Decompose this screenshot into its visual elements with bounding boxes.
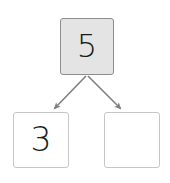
part-box-right[interactable] [104,112,160,168]
whole-box-value: 5 [77,30,97,62]
number-bond-diagram: 5 3 [0,0,170,183]
arrow-to-right-part [88,76,121,109]
whole-box[interactable]: 5 [60,18,114,75]
part-box-left-value: 3 [31,123,52,156]
part-box-left[interactable]: 3 [13,112,69,168]
arrow-to-left-part [55,76,87,109]
